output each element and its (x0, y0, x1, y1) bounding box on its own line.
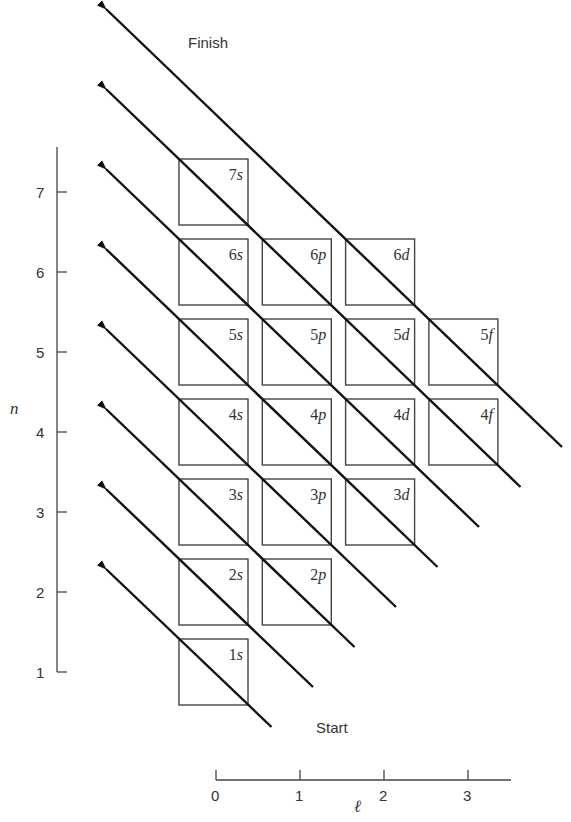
orbital-label: 6d (394, 246, 411, 263)
orbital-label: 4p (310, 406, 326, 424)
y-tick-label: 6 (36, 264, 44, 281)
orbital-label: 6s (229, 246, 243, 263)
orbital-label: 3p (310, 486, 326, 504)
orbital-label: 5d (394, 326, 411, 343)
x-tick-label: 3 (463, 787, 471, 804)
orbital-label: 4d (394, 406, 411, 423)
orbital-label: 4s (229, 406, 243, 423)
orbital-label: 6p (310, 246, 326, 264)
finish-label: Finish (188, 34, 228, 51)
diagonal-arrow (106, 489, 313, 687)
diagonal-arrow (106, 409, 355, 647)
y-tick-label: 3 (36, 504, 44, 521)
start-label: Start (316, 719, 349, 736)
diagonal-arrow (106, 329, 396, 607)
diagonal-arrow (106, 569, 272, 727)
orbital-label: 5f (480, 326, 495, 344)
x-axis-label: ℓ (354, 797, 361, 816)
orbital-label: 1s (229, 646, 243, 663)
y-tick-label: 1 (36, 664, 44, 681)
aufbau-diagram: 1234567 n 0123 ℓ 7s6s6p6d5s5p5d5f4s4p4d4… (0, 0, 571, 822)
y-axis: 1234567 n (10, 147, 67, 681)
diagonal-arrow (106, 249, 438, 567)
orbital-label: 2p (310, 566, 326, 584)
x-axis: 0123 ℓ (211, 770, 511, 816)
y-tick-label: 5 (36, 344, 44, 361)
x-tick-label: 1 (295, 787, 303, 804)
diagonal-arrow (106, 169, 479, 527)
orbital-label: 3s (229, 486, 243, 503)
y-tick-label: 2 (36, 584, 44, 601)
orbital-boxes: 7s6s6p6d5s5p5d5f4s4p4d4f3s3p3d2s2p1s (179, 159, 498, 705)
diagonal-arrow (106, 9, 562, 447)
y-axis-label: n (10, 399, 19, 418)
y-tick-label: 4 (36, 424, 44, 441)
x-tick-label: 2 (379, 787, 387, 804)
orbital-label: 7s (229, 166, 243, 183)
orbital-label: 2s (229, 566, 243, 583)
diagonal-arrow (106, 89, 521, 487)
orbital-label: 3d (394, 486, 411, 503)
filling-order-arrows (106, 9, 562, 727)
orbital-label: 5p (310, 326, 326, 344)
x-tick-label: 0 (211, 787, 219, 804)
orbital-label: 4f (480, 406, 495, 424)
orbital-label: 5s (229, 326, 243, 343)
y-tick-label: 7 (36, 184, 44, 201)
